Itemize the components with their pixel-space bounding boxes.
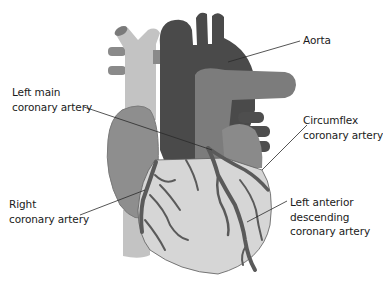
label-circumflex-coronary-artery: Circumflex coronary artery xyxy=(303,113,383,142)
label-aorta: Aorta xyxy=(303,33,331,48)
label-lad-line-2: descending xyxy=(290,210,370,225)
label-left-main-coronary-artery: Left main coronary artery xyxy=(12,85,92,114)
label-circumflex-line-1: Circumflex xyxy=(303,113,383,128)
label-right-coronary-artery: Right coronary artery xyxy=(9,197,89,226)
label-circumflex-line-2: coronary artery xyxy=(303,128,383,143)
label-aorta-line-1: Aorta xyxy=(303,33,331,48)
label-lad-line-1: Left anterior xyxy=(290,195,370,210)
label-lad-line-3: coronary artery xyxy=(290,224,370,239)
pulmonary-veins-right xyxy=(108,47,126,75)
label-left-main-line-1: Left main xyxy=(12,85,92,100)
label-left-main-line-2: coronary artery xyxy=(12,100,92,115)
label-right-line-1: Right xyxy=(9,197,89,212)
label-left-anterior-descending-coronary-artery: Left anterior descending coronary artery xyxy=(290,195,370,239)
label-right-line-2: coronary artery xyxy=(9,212,89,227)
